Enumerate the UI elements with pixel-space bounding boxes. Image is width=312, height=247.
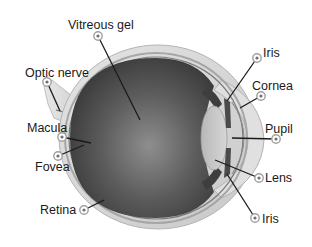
marker-dot-icon [56, 154, 59, 157]
label-cornea: Cornea [240, 79, 293, 108]
marker-dot-icon [96, 34, 99, 37]
eye-diagram: Vitreous gelOptic nerveMaculaFoveaRetina… [0, 0, 312, 247]
marker-dot-icon [255, 56, 258, 59]
marker-dot-icon [253, 216, 256, 219]
marker-dot-icon [82, 208, 85, 211]
label-text: Retina [40, 203, 76, 217]
label-text: Macula [27, 121, 67, 135]
label-text: Pupil [265, 122, 293, 136]
marker-dot-icon [259, 94, 262, 97]
label-text: Fovea [35, 160, 70, 174]
marker-dot-icon [45, 80, 48, 83]
label-text: Iris [263, 46, 280, 60]
marker-dot-icon [274, 137, 277, 140]
label-text: Optic nerve [25, 66, 89, 80]
label-text: Vitreous gel [68, 18, 134, 32]
marker-dot-icon [257, 176, 260, 179]
lens-shape [201, 106, 227, 170]
marker-dot-icon [60, 135, 63, 138]
label-text: Iris [262, 212, 279, 226]
label-text: Lens [265, 171, 292, 185]
vitreous-body [70, 58, 214, 218]
label-text: Cornea [252, 79, 293, 93]
